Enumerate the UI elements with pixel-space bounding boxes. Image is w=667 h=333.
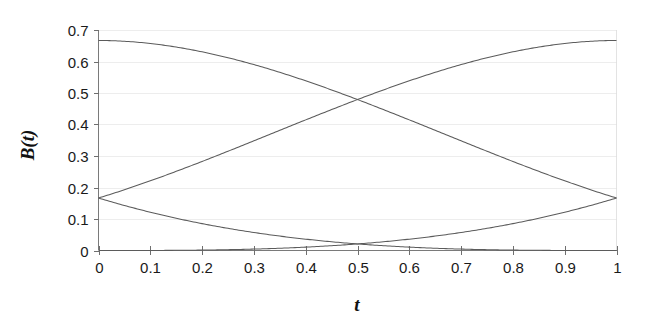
- x-tick-label: 0.6: [399, 259, 420, 276]
- x-tick-label: 0.7: [451, 259, 472, 276]
- y-tick-label: 0.7: [68, 22, 89, 39]
- y-tick-label: 0.3: [68, 148, 89, 165]
- y-tick-label: 0.4: [68, 116, 89, 133]
- y-tick-label: 0.5: [68, 85, 89, 102]
- x-axis-title: t: [354, 294, 360, 315]
- x-tick-label: 0: [95, 259, 103, 276]
- x-tick-label: 0.3: [244, 259, 265, 276]
- x-tick-label: 0.8: [503, 259, 524, 276]
- x-tick-label: 0.5: [348, 259, 369, 276]
- x-tick-label: 1: [613, 259, 621, 276]
- x-tick-label: 0.2: [192, 259, 213, 276]
- y-tick-label: 0: [80, 243, 88, 260]
- chart-background: [0, 0, 667, 333]
- x-tick-label: 0.4: [296, 259, 317, 276]
- y-tick-label: 0.1: [68, 211, 89, 228]
- bspline-basis-chart: 00.10.20.30.40.50.60.7 00.10.20.30.40.50…: [0, 0, 667, 333]
- y-tick-label: 0.2: [68, 180, 89, 197]
- chart-page: 00.10.20.30.40.50.60.7 00.10.20.30.40.50…: [0, 0, 667, 333]
- x-tick-label: 0.1: [140, 259, 161, 276]
- x-tick-label: 0.9: [555, 259, 576, 276]
- y-tick-label: 0.6: [68, 54, 89, 71]
- y-axis-title: B(t): [17, 130, 39, 162]
